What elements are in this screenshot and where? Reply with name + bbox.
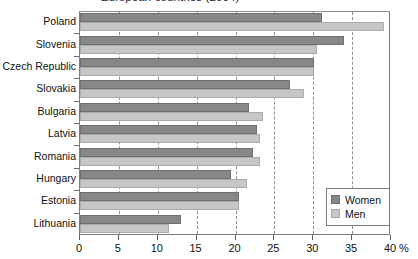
- x-axis-unit-label: %: [399, 242, 409, 254]
- legend-swatch-women: [331, 195, 340, 204]
- bar-women: [80, 215, 181, 224]
- bar-women: [80, 58, 314, 67]
- x-axis-tick-label: 5: [98, 242, 138, 254]
- y-axis-label: Slovenia: [2, 38, 76, 50]
- bar-men: [80, 45, 317, 54]
- bar-women: [80, 170, 231, 179]
- x-axis-tick: [157, 235, 158, 240]
- x-axis-tick: [273, 235, 274, 240]
- bar-women: [80, 13, 322, 22]
- bar-women: [80, 36, 344, 45]
- x-axis: 0510152025303540: [79, 235, 390, 259]
- x-axis-tick-label: 20: [215, 242, 255, 254]
- bar-women: [80, 80, 290, 89]
- bar-men: [80, 201, 239, 210]
- bar-group: [80, 79, 389, 101]
- bar-men: [80, 112, 263, 121]
- y-axis-label: Latvia: [2, 127, 76, 139]
- bar-group: [80, 102, 389, 124]
- x-axis-tick-label: 25: [253, 242, 293, 254]
- y-axis-label: Estonia: [2, 194, 76, 206]
- bar-group: [80, 34, 389, 56]
- y-axis-label: Poland: [2, 15, 76, 27]
- x-axis-tick: [79, 235, 80, 240]
- bar-group: [80, 124, 389, 146]
- chart-title: European countries (2004): [40, 0, 300, 7]
- x-axis-tick-label: 15: [176, 242, 216, 254]
- bar-group: [80, 57, 389, 79]
- y-axis-label: Romania: [2, 150, 76, 162]
- bar-men: [80, 224, 169, 233]
- x-axis-tick: [235, 235, 236, 240]
- x-axis-tick-label: 35: [331, 242, 371, 254]
- legend-swatch-men: [331, 209, 340, 218]
- y-axis-label: Lithuania: [2, 217, 76, 229]
- bar-men: [80, 134, 260, 143]
- x-axis-tick-label: 10: [137, 242, 177, 254]
- bar-chart: European countries (2004) PolandSlovenia…: [0, 0, 418, 259]
- y-axis-label: Hungary: [2, 172, 76, 184]
- bar-women: [80, 148, 253, 157]
- y-axis-label: Slovakia: [2, 82, 76, 94]
- y-axis-label: Czech Republic: [2, 60, 76, 72]
- bar-men: [80, 89, 304, 98]
- legend-label: Men: [345, 208, 365, 220]
- bar-men: [80, 179, 247, 188]
- chart-legend: WomenMen: [326, 188, 390, 226]
- bar-women: [80, 103, 249, 112]
- bar-women: [80, 125, 257, 134]
- x-axis-tick: [118, 235, 119, 240]
- x-axis-tick: [196, 235, 197, 240]
- y-axis-labels: PolandSloveniaCzech RepublicSlovakiaBulg…: [0, 11, 76, 235]
- bar-women: [80, 192, 239, 201]
- bar-group: [80, 12, 389, 34]
- legend-label: Women: [345, 194, 381, 206]
- legend-item: Women: [331, 193, 385, 206]
- x-axis-tick: [390, 235, 391, 240]
- bar-men: [80, 157, 260, 166]
- legend-item: Men: [331, 207, 385, 220]
- bar-men: [80, 22, 384, 31]
- y-axis-label: Bulgaria: [2, 105, 76, 117]
- bar-group: [80, 146, 389, 168]
- x-axis-tick: [351, 235, 352, 240]
- x-axis-tick: [312, 235, 313, 240]
- x-axis-tick-label: 30: [292, 242, 332, 254]
- x-axis-tick-label: 0: [59, 242, 99, 254]
- bar-men: [80, 67, 314, 76]
